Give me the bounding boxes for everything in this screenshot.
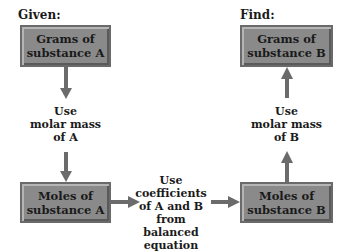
arrow-up-icon bbox=[281, 151, 293, 182]
arrow-right-icon bbox=[111, 196, 140, 208]
arrows-layer bbox=[0, 0, 352, 251]
arrow-up-icon bbox=[281, 67, 293, 98]
arrow-down-icon bbox=[60, 152, 72, 182]
arrow-right-icon bbox=[211, 196, 240, 208]
arrow-down-icon bbox=[60, 67, 72, 99]
